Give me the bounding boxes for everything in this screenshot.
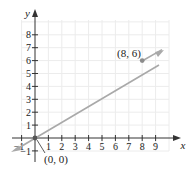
x-tick-label: 1 xyxy=(46,141,51,152)
x-tick-label: 4 xyxy=(86,141,91,152)
coordinate-plane: −1 1 2 3 4 5 6 7 8 9 −1 1 2 3 4 5 6 7 8 … xyxy=(0,0,191,172)
y-tick-label: 1 xyxy=(26,120,31,131)
y-tick-label: 8 xyxy=(26,29,31,40)
y-tick-label: 3 xyxy=(26,94,31,105)
y-tick-label: 4 xyxy=(26,81,31,92)
y-tick-label: 5 xyxy=(26,68,31,79)
y-tick-label: −1 xyxy=(20,146,31,157)
x-axis-label: x xyxy=(180,139,186,151)
y-tick-label: 2 xyxy=(26,107,31,118)
y-tick-label: 7 xyxy=(26,42,31,53)
y-tick-label: 6 xyxy=(26,55,31,66)
x-tick-label: 5 xyxy=(100,141,105,152)
x-tick-label: 7 xyxy=(126,141,131,152)
grid xyxy=(22,20,169,151)
x-tick-label: 9 xyxy=(153,141,158,152)
y-axis-label: y xyxy=(24,7,30,19)
x-tick-label: 3 xyxy=(73,141,78,152)
x-tick-label: 8 xyxy=(140,141,145,152)
origin-label: (0, 0) xyxy=(44,153,68,166)
point-label: (8, 6) xyxy=(117,47,141,60)
y-axis-arrow-icon xyxy=(32,9,38,17)
point-origin xyxy=(33,136,38,141)
x-tick-label: 2 xyxy=(59,141,64,152)
x-tick-label: 6 xyxy=(113,141,118,152)
